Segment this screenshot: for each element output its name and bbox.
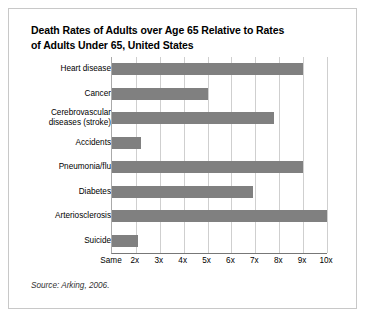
gridline xyxy=(327,57,328,253)
bar xyxy=(112,63,303,75)
bar xyxy=(112,88,208,100)
bar xyxy=(112,112,274,124)
chart-title-line-1: Death Rates of Adults over Age 65 Relati… xyxy=(31,24,284,36)
chart-title-line-2: of Adults Under 65, United States xyxy=(31,38,331,53)
value-tick-label: 2x xyxy=(131,256,140,265)
value-tick-label: 8x xyxy=(274,256,283,265)
category-label-line-1: Arteriosclerosis xyxy=(55,211,111,220)
bar xyxy=(112,186,253,198)
value-tick-label: Same xyxy=(100,256,121,265)
category-label-line-1: Cerebrovascular xyxy=(51,108,111,117)
gridline xyxy=(136,57,137,253)
category-label-line-1: Accidents xyxy=(76,138,112,147)
value-tick-label: 4x xyxy=(178,256,187,265)
bar xyxy=(112,235,138,247)
category-label: Heart disease xyxy=(17,64,111,74)
source-note: Source: Arking, 2006. xyxy=(31,281,109,290)
value-tick-label: 9x xyxy=(298,256,307,265)
value-tick-label: 3x xyxy=(154,256,163,265)
gridline xyxy=(184,57,185,253)
chart-plot-wrapper: Heart diseaseCancerCerebrovasculardiseas… xyxy=(9,57,358,267)
category-label-line-2: diseases (stroke) xyxy=(49,118,111,127)
bar xyxy=(112,210,327,222)
gridline xyxy=(303,57,304,253)
gridline xyxy=(279,57,280,253)
value-tick-label: 6x xyxy=(226,256,235,265)
category-label: Diabetes xyxy=(17,187,111,197)
category-label: Accidents xyxy=(17,138,111,148)
value-tick-label: 5x xyxy=(202,256,211,265)
value-tick-label: 7x xyxy=(250,256,259,265)
bar xyxy=(112,137,141,149)
category-label: Arteriosclerosis xyxy=(17,211,111,221)
category-label: Cancer xyxy=(17,89,111,99)
category-label: Pneumonia/flu xyxy=(17,162,111,172)
category-label-line-1: Cancer xyxy=(85,89,111,98)
value-tick-label: 10x xyxy=(319,256,332,265)
category-label: Cerebrovasculardiseases (stroke) xyxy=(17,108,111,128)
plot-area xyxy=(111,57,327,254)
gridline xyxy=(231,57,232,253)
gridline xyxy=(255,57,256,253)
category-label-line-1: Suicide xyxy=(84,236,111,245)
category-label: Suicide xyxy=(17,236,111,246)
value-axis-tick-labels: Same2x3x4x5x6x7x8x9x10x xyxy=(111,256,351,270)
category-label-line-1: Diabetes xyxy=(79,187,111,196)
gridline xyxy=(160,57,161,253)
gridline xyxy=(208,57,209,253)
category-label-line-1: Heart disease xyxy=(60,64,111,73)
category-label-line-1: Pneumonia/flu xyxy=(59,162,111,171)
bar xyxy=(112,161,303,173)
figure-frame: Death Rates of Adults over Age 65 Relati… xyxy=(8,8,357,309)
page-title: Death Rates of Adults over Age 65 Relati… xyxy=(31,23,331,53)
category-axis-labels: Heart diseaseCancerCerebrovasculardiseas… xyxy=(17,57,111,253)
